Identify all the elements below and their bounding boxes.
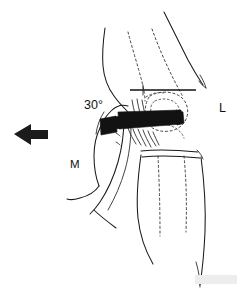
medial-side-label: M bbox=[70, 158, 80, 170]
device-tip bbox=[176, 110, 184, 125]
lateral-side-label: L bbox=[219, 101, 226, 115]
flexion-angle-label: 30° bbox=[84, 98, 103, 112]
device-tab bbox=[100, 116, 117, 135]
knee-lateral-illustration: 30° L M bbox=[0, 0, 244, 292]
figure-root: 30° L M bbox=[0, 0, 244, 292]
device-connector bbox=[115, 116, 121, 129]
scan-artifact-smudge bbox=[195, 275, 237, 284]
